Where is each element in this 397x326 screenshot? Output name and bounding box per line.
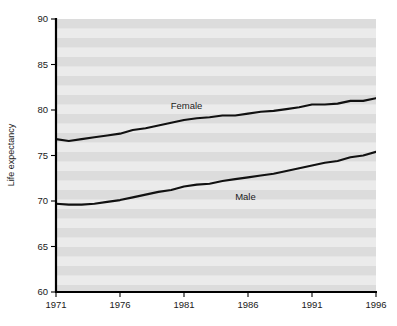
y-axis-tick-labels: 60657075808590 (37, 13, 56, 297)
y-tick-label: 80 (37, 104, 48, 115)
y-tick-label: 75 (37, 150, 48, 161)
x-tick-label: 1996 (365, 299, 386, 310)
y-tick-label: 65 (37, 241, 48, 252)
y-tick-label: 60 (37, 286, 48, 297)
plot-background-bands (56, 19, 376, 292)
series-label-female: Female (171, 100, 203, 111)
series-label-male: Male (235, 191, 256, 202)
x-tick-label: 1986 (237, 299, 258, 310)
x-tick-label: 1991 (301, 299, 322, 310)
y-tick-label: 90 (37, 13, 48, 24)
y-tick-label: 85 (37, 59, 48, 70)
y-tick-label: 70 (37, 195, 48, 206)
y-axis-title: Life expectancy (6, 123, 16, 186)
x-tick-label: 1971 (45, 299, 66, 310)
x-tick-label: 1981 (173, 299, 194, 310)
life-expectancy-chart: 197119761981198619911996 60657075808590 … (0, 0, 397, 326)
chart-canvas: 197119761981198619911996 60657075808590 … (0, 0, 397, 326)
x-axis-tick-labels: 197119761981198619911996 (45, 292, 386, 310)
x-tick-label: 1976 (109, 299, 130, 310)
